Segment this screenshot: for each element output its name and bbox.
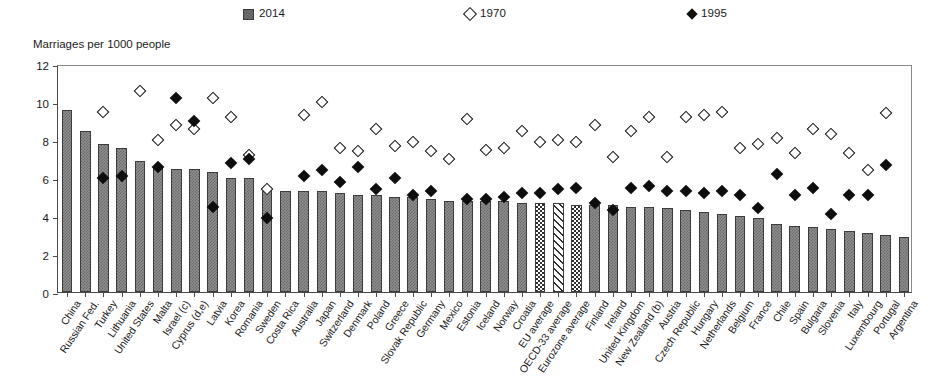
marker-1970-latvia bbox=[206, 92, 219, 105]
bar-belgium bbox=[735, 216, 746, 292]
bar-japan bbox=[317, 191, 328, 292]
marker-1995-croatia bbox=[516, 187, 529, 200]
bar-austria bbox=[662, 208, 673, 292]
x-axis-tick bbox=[777, 292, 778, 297]
marker-1970-greece bbox=[388, 139, 401, 152]
marker-1995-oecd-33-average bbox=[552, 183, 565, 196]
filled-square-icon bbox=[243, 9, 254, 20]
bar-czech-republic bbox=[680, 210, 691, 292]
legend-item-1995: 1995 bbox=[688, 4, 727, 24]
y-axis-tick bbox=[53, 180, 58, 181]
bar-netherlands bbox=[717, 214, 728, 292]
bar-eu-average bbox=[535, 203, 546, 292]
bar-russian-fed bbox=[80, 131, 91, 293]
x-axis-tick bbox=[486, 292, 487, 297]
bar-united-states bbox=[135, 161, 146, 292]
marker-1970-eurozone-average bbox=[570, 136, 583, 149]
marker-1970-croatia bbox=[516, 124, 529, 137]
marker-1995-israel-c bbox=[170, 92, 183, 105]
marker-1970-hungary bbox=[697, 109, 710, 122]
x-axis-tick bbox=[103, 292, 104, 297]
marker-1970-netherlands bbox=[716, 105, 729, 118]
marker-1970-slovak-republic bbox=[406, 136, 419, 149]
x-axis-tick bbox=[285, 292, 286, 297]
y-axis-tick-label: 4 bbox=[43, 212, 49, 224]
marker-1970-austria bbox=[661, 151, 674, 164]
x-axis-tick bbox=[686, 292, 687, 297]
bar-latvia bbox=[207, 172, 218, 292]
bar-italy bbox=[844, 231, 855, 292]
bar-new-zealand-b bbox=[644, 207, 655, 293]
marker-1995-bulgaria bbox=[807, 181, 820, 194]
x-axis-tick bbox=[704, 292, 705, 297]
marker-1970-oecd-33-average bbox=[552, 134, 565, 147]
bar-chile bbox=[771, 224, 782, 292]
bar-romania bbox=[244, 178, 255, 292]
marker-1995-hungary bbox=[697, 187, 710, 200]
bar-spain bbox=[789, 226, 800, 293]
marker-1970-turkey bbox=[97, 105, 110, 118]
marker-1970-united-kingdom bbox=[625, 124, 638, 137]
bar-eurozone-average bbox=[571, 205, 582, 292]
marker-1970-czech-republic bbox=[679, 111, 692, 124]
marker-1970-israel-c bbox=[170, 118, 183, 131]
marker-1970-switzerland bbox=[334, 141, 347, 154]
bar-costa-rica bbox=[280, 191, 291, 292]
x-axis-tick bbox=[522, 292, 523, 297]
bar-korea bbox=[226, 178, 237, 292]
y-axis-tick-label: 8 bbox=[43, 136, 49, 148]
marker-1970-korea bbox=[224, 111, 237, 124]
bar-ireland bbox=[608, 205, 619, 292]
x-axis-tick bbox=[122, 292, 123, 297]
marker-1970-new-zealand-b bbox=[643, 111, 656, 124]
bar-luxembourg bbox=[862, 233, 873, 292]
marker-1970-australia bbox=[297, 109, 310, 122]
bar-malta bbox=[153, 167, 164, 292]
marker-1970-ireland bbox=[606, 151, 619, 164]
x-axis-labels: ChinaRussian Fed.TurkeyLithuaniaUnited S… bbox=[57, 298, 912, 392]
x-axis-tick bbox=[886, 292, 887, 297]
legend-label-1995: 1995 bbox=[701, 8, 727, 20]
x-axis-tick bbox=[740, 292, 741, 297]
bar-mexico bbox=[444, 201, 455, 292]
x-axis-tick bbox=[249, 292, 250, 297]
marker-1970-slovenia bbox=[825, 128, 838, 141]
x-axis-tick bbox=[649, 292, 650, 297]
bar-switzerland bbox=[335, 193, 346, 292]
x-axis-tick bbox=[595, 292, 596, 297]
bar-china bbox=[62, 110, 73, 292]
marker-1970-norway bbox=[497, 141, 510, 154]
marker-1995-chile bbox=[770, 168, 783, 181]
bar-germany bbox=[426, 199, 437, 292]
marker-1995-greece bbox=[388, 172, 401, 185]
x-axis-tick bbox=[849, 292, 850, 297]
y-axis-tick bbox=[53, 218, 58, 219]
x-axis-tick bbox=[904, 292, 905, 297]
bar-poland bbox=[371, 195, 382, 292]
x-axis-tick bbox=[631, 292, 632, 297]
marriage-rate-chart: 2014 1970 1995 Marriages per 1000 people… bbox=[0, 0, 940, 392]
marker-1995-japan bbox=[315, 164, 328, 177]
marker-1970-germany bbox=[425, 145, 438, 158]
bar-slovenia bbox=[826, 229, 837, 292]
x-axis-tick bbox=[504, 292, 505, 297]
bar-portugal bbox=[880, 235, 891, 292]
marker-1995-portugal bbox=[879, 158, 892, 171]
marker-1995-belgium bbox=[734, 189, 747, 202]
marker-1995-slovenia bbox=[825, 208, 838, 221]
legend-label-2014: 2014 bbox=[259, 8, 285, 20]
x-axis-tick bbox=[304, 292, 305, 297]
x-axis-tick bbox=[540, 292, 541, 297]
bar-cyprus-d-e bbox=[189, 169, 200, 293]
x-axis-tick bbox=[85, 292, 86, 297]
x-axis-tick bbox=[413, 292, 414, 297]
bar-greece bbox=[389, 197, 400, 292]
marker-1995-luxembourg bbox=[861, 189, 874, 202]
bar-france bbox=[753, 218, 764, 292]
bar-slovak-republic bbox=[407, 197, 418, 292]
marker-1995-austria bbox=[661, 185, 674, 198]
y-axis-tick-label: 10 bbox=[36, 98, 49, 110]
open-diamond-icon bbox=[463, 7, 477, 21]
y-axis-tick bbox=[53, 294, 58, 295]
marker-1970-estonia bbox=[461, 113, 474, 126]
